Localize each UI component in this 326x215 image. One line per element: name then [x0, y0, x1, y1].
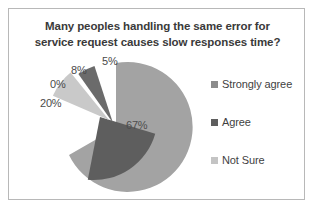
chart-title: Many peoples handling the same error for… [9, 18, 306, 50]
legend-label-not-sure: Not Sure [222, 154, 265, 166]
legend-swatch-icon [211, 157, 218, 164]
data-label-slice-2: 20% [40, 97, 61, 109]
data-label-slice-1: 67% [126, 119, 147, 131]
data-label-slice-3: 0% [50, 78, 66, 90]
legend-swatch-icon [211, 119, 218, 126]
chart-title-line-2: service request causes slow responses ti… [9, 34, 306, 50]
data-label-slice-4: 8% [71, 64, 87, 76]
chart-legend: Strongly agree Agree Not Sure [209, 67, 305, 201]
legend-item-not-sure[interactable]: Not Sure [211, 153, 265, 167]
legend-item-agree[interactable]: Agree [211, 115, 251, 129]
legend-swatch-icon [211, 81, 218, 88]
pie-plot-area: 67% 20% 0% 8% 5% [9, 53, 209, 201]
legend-item-strongly-agree[interactable]: Strongly agree [211, 77, 292, 91]
chart-title-line-1: Many peoples handling the same error for [9, 18, 306, 34]
legend-label-agree: Agree [222, 116, 251, 128]
data-label-slice-5: 5% [102, 55, 118, 67]
chart-frame: Many peoples handling the same error for… [8, 8, 305, 200]
legend-label-strongly-agree: Strongly agree [222, 78, 292, 90]
pie-chart-graphic [17, 55, 201, 199]
